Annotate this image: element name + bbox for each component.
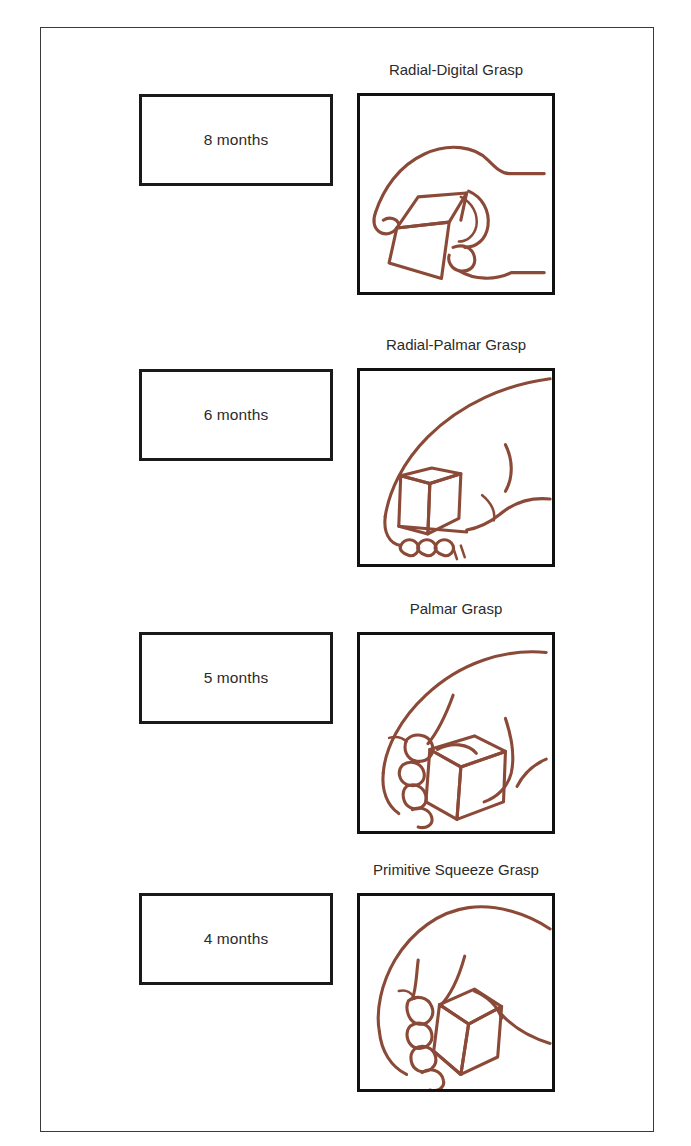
- illustration-box: [357, 368, 555, 567]
- illustration-box: [357, 93, 555, 295]
- grasp-title: Radial-Digital Grasp: [357, 61, 555, 78]
- radial-palmar-grasp-icon: [360, 371, 552, 564]
- age-box: 5 months: [139, 632, 333, 724]
- grasp-row: 5 months Palmar Grasp: [0, 594, 691, 844]
- age-label: 6 months: [204, 406, 269, 424]
- grasp-title: Palmar Grasp: [357, 600, 555, 617]
- radial-digital-grasp-icon: [360, 96, 552, 292]
- grasp-development-chart: 8 months Radial-Digital Grasp: [0, 0, 691, 1146]
- age-box: 8 months: [139, 94, 333, 186]
- age-label: 8 months: [204, 131, 269, 149]
- grasp-title: Radial-Palmar Grasp: [357, 336, 555, 353]
- age-box: 4 months: [139, 893, 333, 985]
- illustration-box: [357, 893, 555, 1092]
- grasp-row: 6 months Radial-Palmar Grasp: [0, 330, 691, 580]
- grasp-row: 8 months Radial-Digital Grasp: [0, 55, 691, 305]
- age-box: 6 months: [139, 369, 333, 461]
- age-label: 4 months: [204, 930, 269, 948]
- grasp-title: Primitive Squeeze Grasp: [344, 861, 568, 878]
- palmar-grasp-icon: [360, 635, 552, 831]
- grasp-row: 4 months Primitive Squeeze Grasp: [0, 855, 691, 1105]
- illustration-box: [357, 632, 555, 834]
- primitive-squeeze-grasp-icon: [360, 896, 552, 1089]
- age-label: 5 months: [204, 669, 269, 687]
